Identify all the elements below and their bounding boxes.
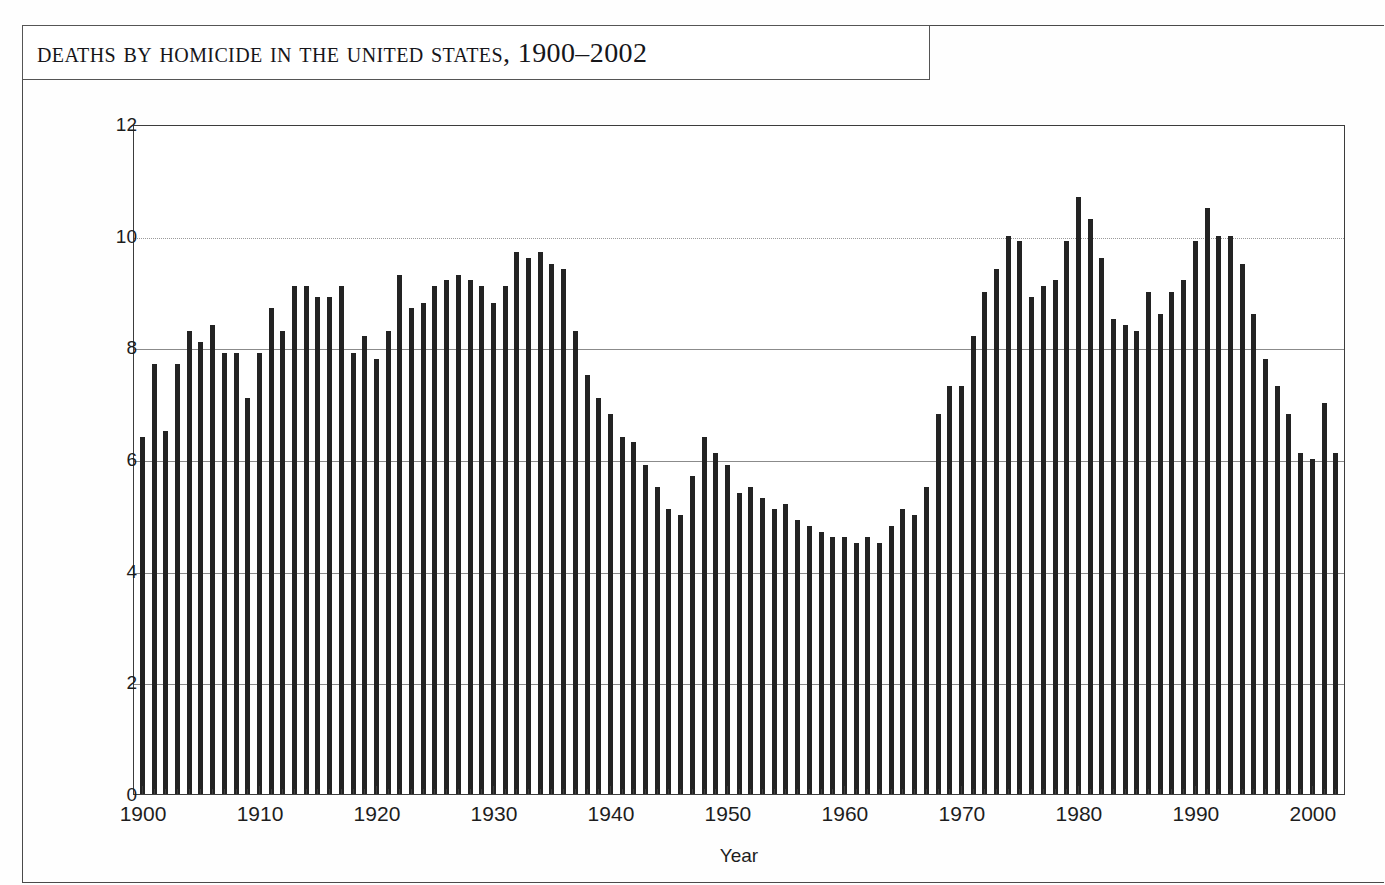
x-tick [317, 789, 318, 795]
homicide-rate-bar-chart: Rate per 100,000 Residents 024681012 190… [0, 0, 1385, 885]
bar [1134, 331, 1139, 794]
x-tick [1277, 789, 1278, 795]
x-tick [271, 789, 272, 795]
bar [163, 431, 168, 794]
bar [409, 308, 414, 794]
x-tick [236, 789, 237, 795]
x-tick-label: 1950 [683, 802, 773, 826]
x-tick [353, 789, 354, 795]
bar [1240, 264, 1245, 794]
bar [748, 487, 753, 794]
bar [1228, 236, 1233, 794]
x-tick [247, 789, 248, 795]
x-tick [306, 789, 307, 795]
bar [1205, 208, 1210, 794]
bar [994, 269, 999, 794]
x-tick [516, 789, 517, 795]
bar [1041, 286, 1046, 794]
x-tick [1136, 789, 1137, 795]
x-tick [364, 789, 365, 795]
bar [877, 543, 882, 794]
bar [491, 303, 496, 794]
x-tick [423, 789, 424, 795]
y-tick-label: 12 [77, 114, 137, 136]
x-tick [668, 789, 669, 795]
bar [573, 331, 578, 794]
bar [865, 537, 870, 794]
x-tick [867, 789, 868, 795]
plot-area [133, 125, 1345, 795]
bar [304, 286, 309, 794]
x-tick [1125, 789, 1126, 795]
x-tick-label: 1900 [98, 802, 188, 826]
x-tick [797, 789, 798, 795]
bar [444, 280, 449, 794]
bar [1333, 453, 1338, 794]
x-tick [832, 789, 833, 795]
x-tick [528, 789, 529, 795]
x-tick [1218, 789, 1219, 795]
bar [468, 280, 473, 794]
x-tick [1055, 789, 1056, 795]
x-tick-label: 1990 [1151, 802, 1241, 826]
bar [1099, 258, 1104, 794]
bar [1064, 241, 1069, 794]
x-tick-label: 1980 [1034, 802, 1124, 826]
x-tick [551, 789, 552, 795]
bar [725, 465, 730, 794]
x-tick [692, 789, 693, 795]
bar [514, 252, 519, 794]
x-tick [177, 789, 178, 795]
x-tick [949, 789, 950, 795]
bar [456, 275, 461, 794]
bar [1076, 197, 1081, 794]
bar [339, 286, 344, 794]
bar [538, 252, 543, 794]
x-tick [715, 789, 716, 795]
x-tick [1160, 789, 1161, 795]
bar [912, 515, 917, 794]
x-tick [1043, 789, 1044, 795]
x-tick [341, 789, 342, 795]
x-tick [1031, 789, 1032, 795]
bar [198, 342, 203, 794]
bar [737, 493, 742, 795]
bar [1169, 292, 1174, 795]
bar [1286, 414, 1291, 794]
bar [690, 476, 695, 794]
x-tick [1113, 789, 1114, 795]
bar [362, 336, 367, 794]
x-tick [446, 789, 447, 795]
x-tick [563, 789, 564, 795]
bar [397, 275, 402, 794]
bar [1216, 236, 1221, 794]
x-tick [1253, 789, 1254, 795]
x-tick [1171, 789, 1172, 795]
x-tick [750, 789, 751, 795]
bar [947, 386, 952, 794]
x-tick [1078, 786, 1079, 795]
x-tick [142, 786, 143, 795]
x-tick [1183, 789, 1184, 795]
bar [315, 297, 320, 794]
x-tick-label: 1970 [917, 802, 1007, 826]
bar [374, 359, 379, 795]
x-tick [891, 789, 892, 795]
x-tick [481, 789, 482, 795]
x-tick-label: 1930 [449, 802, 539, 826]
bar [503, 286, 508, 794]
x-tick [458, 789, 459, 795]
x-tick [727, 786, 728, 795]
x-tick [575, 789, 576, 795]
bar [351, 353, 356, 794]
x-tick [212, 789, 213, 795]
bar [561, 269, 566, 794]
bar [1123, 325, 1128, 794]
x-tick-label: 1960 [800, 802, 890, 826]
bar [713, 453, 718, 794]
bar [760, 498, 765, 794]
x-tick [610, 786, 611, 795]
bar [678, 515, 683, 794]
x-tick [540, 789, 541, 795]
x-tick [189, 789, 190, 795]
